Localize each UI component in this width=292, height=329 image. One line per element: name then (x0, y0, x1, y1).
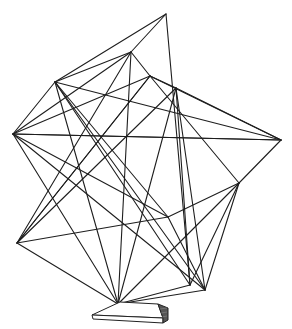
wire-edge (55, 82, 168, 217)
wire-edge (13, 76, 150, 134)
wire-edge (150, 76, 239, 183)
wire-edge (17, 76, 150, 243)
wire-edge (13, 134, 281, 140)
wire-edge (55, 52, 131, 82)
wire-edge (55, 14, 166, 82)
wire-edge (131, 52, 150, 76)
wire-edge (205, 183, 239, 290)
wire-edge (168, 183, 239, 217)
wire-edge (131, 14, 166, 52)
sculpture-wires (13, 14, 281, 304)
wire-sculpture-drawing (0, 0, 292, 329)
wire-edge (55, 82, 118, 304)
wire-edge (150, 76, 281, 140)
wire-edge (118, 183, 239, 304)
wire-edge (239, 140, 281, 183)
wire-edge (13, 134, 168, 217)
wire-edge (13, 82, 55, 134)
wire-edge (176, 88, 205, 290)
pedestal-base (92, 302, 168, 323)
wire-edge (118, 88, 176, 304)
wire-edge (55, 82, 281, 140)
